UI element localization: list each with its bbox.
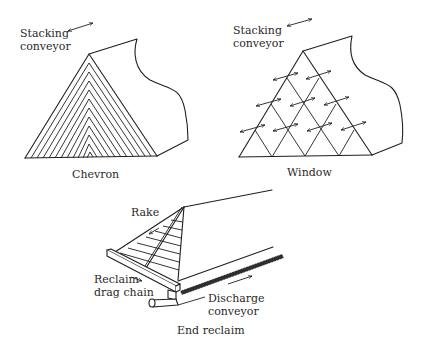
window-arrow-icon [290, 98, 315, 106]
drag-chain-label-line1: Reclaim [94, 273, 140, 286]
chevron-pile-outline [89, 39, 188, 156]
pile-end-face-edge [178, 207, 184, 280]
window-pile-outline [303, 36, 403, 155]
window-stacking-label-line2: conveyor [233, 37, 284, 50]
window-arrow-icon [341, 122, 366, 130]
window-panel: Stacking conveyor Window [233, 19, 403, 179]
end-reclaim-caption: End reclaim [177, 324, 245, 337]
chevron-panel: Stacking conveyor Chevron [20, 23, 188, 181]
window-conveyor-travel-arrow-icon [287, 19, 312, 26]
window-arrow-icon [273, 124, 298, 131]
window-arrow-icon [324, 97, 349, 105]
chevron-stacking-label-line1: Stacking [20, 27, 69, 40]
window-grid [239, 51, 372, 157]
window-arrow-icon [306, 71, 331, 79]
stockpile-diagram: Stacking conveyor Chevron Stacking conve… [0, 0, 421, 348]
discharge-label-line1: Discharge [208, 292, 265, 305]
window-caption: Window [287, 166, 332, 179]
chevron-caption: Chevron [72, 168, 119, 181]
chevron-pile-base [25, 156, 157, 158]
end-reclaim-panel: Rake Reclaim drag chain Discharge convey… [94, 190, 284, 337]
pile-ridge-line [184, 190, 272, 207]
window-arrow-icon [256, 99, 281, 106]
chevron-conveyor-travel-arrow-icon [68, 23, 93, 31]
chevron-stacking-label-line2: conveyor [20, 40, 71, 53]
window-layer-arrows [240, 71, 366, 132]
chevron-layers [25, 54, 157, 158]
window-arrow-icon [307, 123, 332, 131]
window-arrow-icon [240, 125, 265, 132]
drag-chain-label-line2: drag chain [94, 286, 154, 299]
discharge-label-line2: conveyor [208, 305, 259, 318]
window-stacking-label-line1: Stacking [233, 24, 282, 37]
rake-label: Rake [131, 206, 159, 219]
